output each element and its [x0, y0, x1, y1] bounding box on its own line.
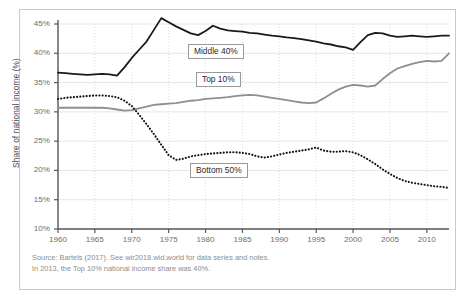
y-tick-label: 25% — [16, 136, 50, 145]
series-label-top-10: Top 10% — [196, 72, 241, 87]
x-tick-label: 1970 — [112, 235, 152, 244]
source-line-1: Source: Bartels (2017). See wir2018.wid.… — [32, 252, 432, 263]
x-tick-label: 1960 — [38, 235, 78, 244]
x-tick-label: 1985 — [222, 235, 262, 244]
x-tick-label: 1990 — [259, 235, 299, 244]
x-tick-label: 1965 — [75, 235, 115, 244]
x-tick-label: 1980 — [186, 235, 226, 244]
series-label-middle-40: Middle 40% — [188, 44, 244, 59]
source-line-2: In 2013, the Top 10% national income sha… — [32, 263, 432, 274]
y-tick-label: 30% — [16, 107, 50, 116]
x-tick-label: 2005 — [370, 235, 410, 244]
y-tick-label: 15% — [16, 195, 50, 204]
series-label-bottom-50: Bottom 50% — [190, 163, 248, 178]
y-tick-label: 45% — [16, 19, 50, 28]
y-tick-label: 40% — [16, 48, 50, 57]
chart-figure: Share of national income (%) 45%40%35%30… — [0, 0, 468, 302]
source-note: Source: Bartels (2017). See wir2018.wid.… — [32, 252, 432, 275]
x-tick-label: 1995 — [296, 235, 336, 244]
x-tick-label: 2010 — [407, 235, 447, 244]
y-tick-label: 35% — [16, 78, 50, 87]
y-tick-label: 10% — [16, 224, 50, 233]
y-tick-label: 20% — [16, 165, 50, 174]
x-tick-label: 1975 — [149, 235, 189, 244]
x-tick-label: 2000 — [333, 235, 373, 244]
